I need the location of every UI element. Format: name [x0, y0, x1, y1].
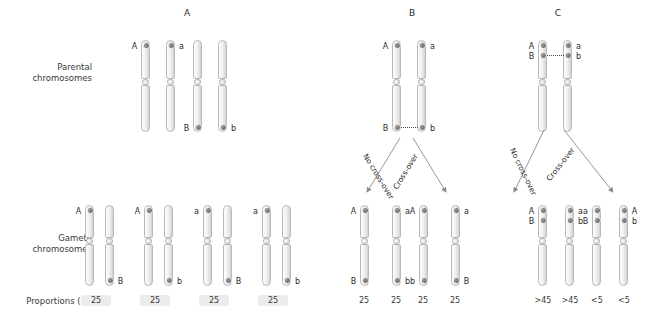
chromosome-arm-top: [218, 40, 227, 79]
proportion-value: 25: [349, 295, 379, 306]
allele-label-A: A: [130, 43, 139, 51]
allele-label-B: B: [234, 278, 243, 286]
chromosome-parental-a3: [193, 40, 202, 132]
allele-label-a: a: [462, 208, 471, 216]
row-label-gamete: Gamete chromosomes: [0, 233, 92, 254]
centromere: [193, 79, 202, 85]
row-label-gamete-line2: chromosomes: [0, 244, 92, 255]
allele-label-A: A: [74, 208, 83, 216]
allele-label-A: A: [527, 43, 536, 51]
chromosome-arm-bottom: [166, 85, 175, 132]
allele-label-a: a: [581, 208, 590, 216]
chromosome-gamete-a2-left: [144, 205, 153, 286]
panel-title-c: C: [538, 8, 578, 18]
allele-label-b: b: [175, 278, 184, 286]
proportion-value: 25: [199, 295, 229, 306]
proportion-value: <5: [609, 295, 639, 306]
allele-label-a: a: [192, 208, 201, 216]
allele-label-b: b: [229, 125, 238, 133]
allele-label-B: B: [381, 125, 390, 133]
centromere: [218, 79, 227, 85]
chromosome-gamete-b3-left: [419, 205, 428, 286]
row-label-proportions: Proportions (%): [0, 296, 92, 306]
allele-label-A: A: [527, 208, 536, 216]
allele-label-b: b: [428, 125, 437, 133]
allele-label-B: B: [182, 125, 191, 133]
proportion-value: >45: [555, 295, 585, 306]
allele-label-B: B: [116, 278, 125, 286]
allele-label-b: b: [408, 278, 417, 286]
allele-label-a: a: [177, 43, 186, 51]
arrow-label-no-crossover: No cross-over: [361, 152, 396, 201]
allele-label-b: b: [574, 53, 583, 61]
chromosome-gamete-a3-left: [203, 205, 212, 286]
panel-title-b: B: [392, 8, 432, 18]
centromere: [166, 79, 175, 85]
diagram-canvas: Parental chromosomes Gamete chromosomes …: [0, 0, 645, 320]
chromosome-gamete-a4-right: [282, 205, 291, 286]
row-label-gamete-line1: Gamete: [0, 233, 92, 244]
proportion-value: 25: [440, 295, 470, 306]
chromosome-gamete-b4-left: [451, 205, 460, 286]
allele-label-b: b: [293, 278, 302, 286]
arrow-crossover: [564, 130, 613, 192]
allele-label-B: B: [349, 278, 358, 286]
chromosome-gamete-b2-left: [392, 205, 401, 286]
chromosome-gamete-a1-right: [105, 205, 114, 286]
arrow-label-crossover: Cross-over: [391, 152, 420, 191]
allele-label-a: a: [574, 43, 583, 51]
allele-label-B: B: [581, 218, 590, 226]
allele-label-B: B: [462, 278, 471, 286]
allele-label-A: A: [349, 208, 358, 216]
allele-label-a: a: [251, 208, 260, 216]
allele-label-B: B: [527, 218, 536, 226]
chromosome-arm-bottom: [141, 85, 150, 132]
proportion-value: 25: [408, 295, 438, 306]
row-label-parental-line1: Parental: [0, 62, 92, 73]
allele-label-a: a: [428, 43, 437, 51]
linkage-dotted-line: [547, 55, 564, 56]
proportion-value: >45: [528, 295, 558, 306]
proportion-value: 25: [81, 295, 111, 306]
chromosome-parental-b1: [392, 40, 401, 132]
arrow-crossover: [413, 138, 446, 192]
chromosome-gamete-a1-left: [85, 205, 94, 286]
allele-label-A: A: [381, 43, 390, 51]
chromosome-gamete-a4-left: [262, 205, 271, 286]
arrow-label-no-crossover: No cross-over: [508, 147, 539, 197]
proportion-value: 25: [381, 295, 411, 306]
proportion-value: <5: [582, 295, 612, 306]
chromosome-gamete-a2-right: [164, 205, 173, 286]
centromere: [141, 79, 150, 85]
allele-label-b: b: [630, 218, 639, 226]
proportion-value: 25: [258, 295, 288, 306]
allele-label-B: B: [527, 53, 536, 61]
row-label-parental-line2: chromosomes: [0, 73, 92, 84]
chromosome-parental-a1: [141, 40, 150, 132]
chromosome-parental-b2: [417, 40, 426, 132]
row-label-parental: Parental chromosomes: [0, 62, 92, 83]
panel-title-a: A: [167, 8, 207, 18]
allele-label-A: A: [630, 208, 639, 216]
proportion-value: 25: [140, 295, 170, 306]
chromosome-gamete-b1-left: [360, 205, 369, 286]
allele-label-A: A: [133, 208, 142, 216]
chromosome-parental-a4: [218, 40, 227, 132]
chromosome-parental-a2: [166, 40, 175, 132]
allele-label-A: A: [408, 208, 417, 216]
chromosome-gamete-a3-right: [223, 205, 232, 286]
chromosome-arm-top: [193, 40, 202, 79]
linkage-dotted-line: [401, 127, 418, 128]
arrow-label-crossover: Cross-over: [545, 146, 577, 183]
